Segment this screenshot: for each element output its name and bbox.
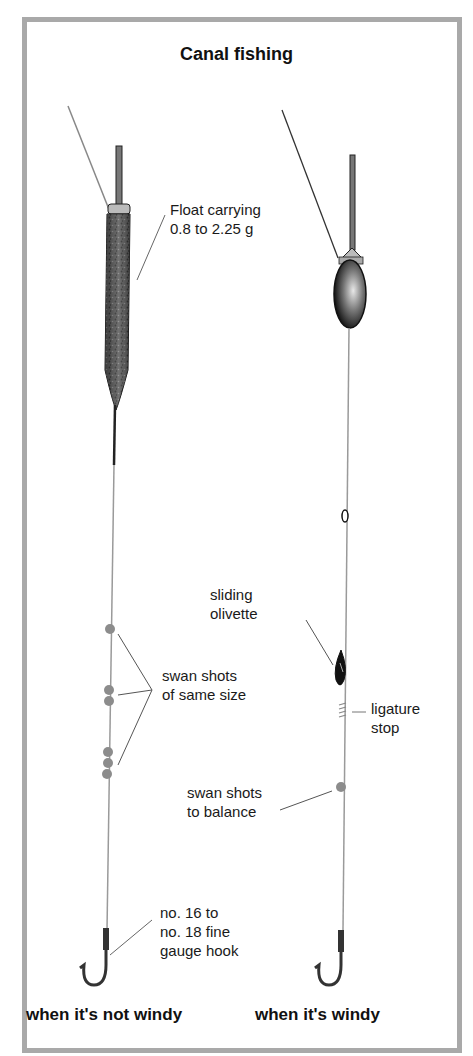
float-label: Float carrying 0.8 to 2.25 g <box>170 200 261 238</box>
float-body-right-icon <box>334 260 366 328</box>
float-antenna-right-icon <box>350 155 355 250</box>
ligature-stop-label: ligature stop <box>371 699 420 737</box>
sliding-olivette-icon <box>335 650 345 685</box>
line-right <box>343 328 349 930</box>
main-line-left <box>68 106 110 212</box>
hook-left-icon <box>80 928 106 985</box>
rig-illustrations <box>0 0 473 1056</box>
hook-label: no. 16 to no. 18 fine gauge hook <box>160 903 238 960</box>
left-rig <box>68 106 165 985</box>
main-line-right <box>282 110 338 258</box>
sliding-olivette-label: sliding olivette <box>210 585 258 623</box>
caption-not-windy: when it's not windy <box>26 1005 182 1025</box>
swan-shots-left-icon <box>102 624 115 779</box>
right-rig <box>280 110 366 985</box>
caption-windy: when it's windy <box>255 1005 380 1025</box>
float-antenna-left-icon <box>116 146 122 206</box>
swan-shots-same-size-label: swan shots of same size <box>162 666 246 704</box>
hook-right-icon <box>315 930 341 985</box>
swan-shot-right-icon <box>336 782 346 792</box>
swan-shots-balance-label: swan shots to balance <box>187 783 262 821</box>
